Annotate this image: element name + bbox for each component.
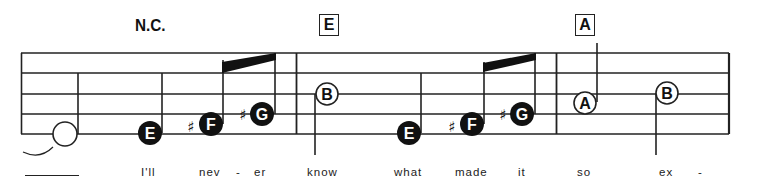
lyric-syllable: nev xyxy=(199,166,221,178)
svg-text:E: E xyxy=(404,125,415,142)
svg-text:F: F xyxy=(467,116,477,133)
svg-text:G: G xyxy=(516,106,528,123)
svg-text:E: E xyxy=(145,125,156,142)
lyric-syllable: it xyxy=(518,166,526,178)
chord-no-chord: N.C. xyxy=(135,16,166,36)
beam xyxy=(483,53,536,72)
lyric-hyphen: - xyxy=(698,166,703,178)
melisma-line xyxy=(25,175,79,176)
tie-arc xyxy=(23,147,53,155)
svg-text:A: A xyxy=(579,95,591,112)
beam xyxy=(222,53,276,73)
music-score: E ♯ F ♯ G B E ♯ F xyxy=(0,0,766,193)
note-b: B xyxy=(315,83,338,155)
lyric-hyphen: - xyxy=(236,166,241,178)
lyric-syllable: ex xyxy=(659,166,673,178)
chord-box-a: A xyxy=(575,14,595,36)
chord-box-e: E xyxy=(319,14,339,36)
lyric-syllable: what xyxy=(394,166,422,178)
staff-notation: E ♯ F ♯ G B E ♯ F xyxy=(0,0,766,193)
sharp-icon: ♯ xyxy=(239,106,246,124)
svg-text:B: B xyxy=(321,86,333,103)
lyric-syllable: er xyxy=(254,166,266,178)
staff-lines xyxy=(21,53,729,134)
note-a: A xyxy=(574,43,597,114)
sharp-icon: ♯ xyxy=(499,106,506,124)
note-e: E xyxy=(397,73,421,145)
sharp-icon: ♯ xyxy=(187,118,194,136)
lyric-syllable: so xyxy=(577,166,591,178)
note-b: B xyxy=(656,82,678,155)
lyric-syllable: know xyxy=(307,166,338,178)
note-e: E xyxy=(138,73,162,145)
note-f-sharp: ♯ F xyxy=(187,60,223,136)
lyric-syllable: made xyxy=(455,166,488,178)
svg-text:G: G xyxy=(256,106,268,123)
svg-text:F: F xyxy=(206,116,216,133)
lyric-syllable: I'll xyxy=(141,166,156,178)
svg-text:B: B xyxy=(661,85,673,102)
sharp-icon: ♯ xyxy=(448,118,455,136)
tied-half-note xyxy=(53,73,78,146)
